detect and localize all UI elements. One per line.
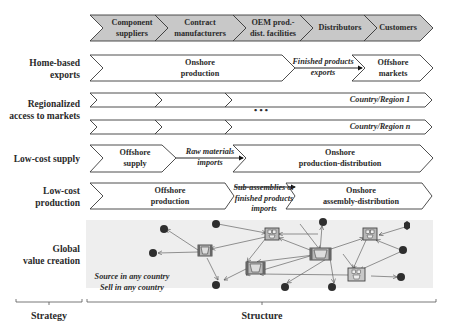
segment-line: Offshore	[120, 148, 151, 157]
segment-line: Offshore	[155, 186, 186, 195]
caption-line: Sell in any country	[100, 283, 164, 292]
segment-offshore-supply: Offshoresupply	[105, 148, 165, 169]
segment-line: production	[151, 197, 190, 206]
strategy-line: Global	[53, 244, 80, 254]
segment-line: production-distribution	[299, 159, 382, 168]
segment-line: Onshore	[185, 58, 215, 67]
strategy-line: Home-based	[29, 58, 80, 68]
footer-strategy-label: Strategy	[16, 310, 82, 321]
footer-structure-label: Structure	[222, 310, 302, 321]
header-stage-customers: Customers	[372, 23, 424, 34]
segment-country-region-n: Country/Region n	[335, 122, 425, 133]
header-label-line: OEM prod.-	[251, 18, 294, 27]
segment-line: Onshore	[346, 186, 376, 195]
strategy-line: value creation	[23, 256, 80, 266]
strategy-line: Regionalized	[28, 99, 80, 109]
header-stage-contract-manufacturers: Contractmanufacturers	[166, 18, 234, 39]
flow-line: finished products	[235, 194, 293, 203]
segment-line: assembly-distribution	[323, 197, 399, 206]
header-label-line: suppliers	[116, 29, 148, 38]
segment-offshore-production: Offshoreproduction	[125, 186, 215, 207]
strategy-line: production	[35, 198, 80, 208]
segment-onshore-production: Onshoreproduction	[150, 58, 250, 79]
header-label-line: manufacturers	[174, 29, 226, 38]
segment-onshore-production-distribution: Onshoreproduction-distribution	[280, 148, 400, 169]
segment-offshore-markets: Offshoremarkets	[364, 58, 422, 79]
flow-sub-assemblies-imports: Sub-assemblies orfinished productsimport…	[228, 183, 300, 215]
flow-line: imports	[197, 158, 222, 167]
header-stage-component-suppliers: Componentsuppliers	[104, 18, 160, 39]
strategy-line: access to markets	[9, 111, 80, 121]
flow-line: Raw materials	[186, 147, 234, 156]
network-caption: Source in any countrySell in any country	[92, 272, 172, 293]
ellipsis: • • •	[236, 105, 286, 116]
strategy-low-cost-production: Low-costproduction	[2, 185, 80, 209]
segment-line: Onshore	[325, 148, 355, 157]
flow-raw-materials-imports: Raw materialsimports	[178, 147, 242, 168]
strategy-line: exports	[50, 70, 80, 80]
strategy-global-value-creation: Globalvalue creation	[2, 243, 80, 267]
supply-chain-strategy-diagram: Componentsuppliers Contractmanufacturers…	[0, 0, 449, 331]
strategy-low-cost-supply: Low-cost supply	[2, 153, 80, 165]
strategy-line: Low-cost	[43, 186, 80, 196]
caption-line: Source in any country	[95, 272, 170, 281]
flow-line: imports	[251, 204, 276, 213]
strategy-home-based-exports: Home-basedexports	[2, 57, 80, 81]
segment-line: Offshore	[378, 58, 409, 67]
flow-line: exports	[311, 68, 336, 77]
segment-line: production	[181, 69, 220, 78]
segment-country-region-1: Country/Region 1	[335, 95, 425, 106]
segment-line: markets	[379, 69, 408, 78]
segment-onshore-assembly-distribution: Onshoreassembly-distribution	[305, 186, 417, 207]
header-label-line: Component	[112, 18, 153, 27]
header-stage-oem-facilities: OEM prod.-dist. facilities	[242, 18, 304, 39]
header-stage-distributors: Distributors	[310, 23, 370, 34]
strategy-regionalized: Regionalizedaccess to markets	[2, 98, 80, 122]
flow-line: Finished products	[292, 57, 353, 66]
flow-line: Sub-assemblies or	[233, 183, 294, 192]
footer-brackets	[16, 299, 436, 305]
flow-finished-products-exports: Finished productsexports	[288, 57, 358, 78]
header-label-line: dist. facilities	[250, 29, 296, 38]
header-label-line: Contract	[184, 18, 215, 27]
segment-line: supply	[123, 159, 146, 168]
